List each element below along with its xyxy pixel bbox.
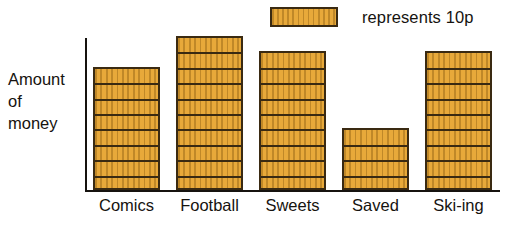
bar-slot: [176, 36, 243, 190]
bar-segment-divider: [95, 114, 158, 116]
bar-segment-divider: [344, 160, 407, 162]
bar-segment-divider: [178, 145, 241, 147]
bar-segment-divider: [178, 83, 241, 85]
bar-segment-divider: [178, 176, 241, 178]
bar-segment-divider: [178, 52, 241, 54]
bar-segment-divider: [95, 145, 158, 147]
bar-segment-divider: [427, 129, 490, 131]
bar-segment-divider: [344, 145, 407, 147]
bar-segment-divider: [178, 68, 241, 70]
y-axis-title-line-2: of: [8, 90, 65, 112]
bar-segment-divider: [178, 114, 241, 116]
x-axis-tick-labels: ComicsFootballSweetsSavedSki-ing: [93, 196, 500, 222]
bar-sweets[interactable]: [259, 51, 326, 190]
bar-segment-divider: [427, 145, 490, 147]
y-axis-title: Amount of money: [8, 68, 65, 134]
bar-segment-divider: [178, 129, 241, 131]
y-axis-line: [85, 38, 87, 191]
bar-segment-divider: [261, 160, 324, 162]
bar-segment-divider: [95, 83, 158, 85]
x-axis-label-comics: Comics: [93, 196, 160, 215]
x-axis-label-sweets: Sweets: [259, 196, 326, 215]
bar-ski-ing[interactable]: [425, 51, 492, 190]
bar-segment-divider: [261, 176, 324, 178]
x-axis-label-football: Football: [176, 196, 243, 215]
bar-segment-divider: [261, 68, 324, 70]
bar-segment-divider: [95, 160, 158, 162]
bar-chart: represents 10p Amount of money ComicsFoo…: [0, 0, 505, 226]
bar-segment-divider: [427, 114, 490, 116]
bar-segment-divider: [344, 176, 407, 178]
x-axis-line: [85, 190, 500, 192]
bar-segment-divider: [261, 83, 324, 85]
bar-slot: [259, 51, 326, 190]
bar-saved[interactable]: [342, 128, 409, 190]
bar-segment-divider: [95, 99, 158, 101]
bar-segment-divider: [427, 83, 490, 85]
bar-segment-divider: [427, 68, 490, 70]
bar-segment-divider: [427, 176, 490, 178]
bar-segment-divider: [261, 129, 324, 131]
bar-segment-divider: [178, 99, 241, 101]
bar-segment-divider: [261, 99, 324, 101]
x-axis-label-saved: Saved: [342, 196, 409, 215]
plot-area: [93, 20, 500, 190]
bar-slot: [93, 67, 160, 190]
bar-segment-divider: [95, 129, 158, 131]
y-axis-title-line-1: Amount: [8, 68, 65, 90]
y-axis-title-line-3: money: [8, 112, 65, 134]
bar-segment-divider: [261, 145, 324, 147]
bar-comics[interactable]: [93, 67, 160, 190]
bar-segment-divider: [261, 114, 324, 116]
bar-slot: [342, 128, 409, 190]
bar-football[interactable]: [176, 36, 243, 190]
x-axis-label-ski-ing: Ski-ing: [425, 196, 492, 215]
bar-segment-divider: [427, 160, 490, 162]
bar-slot: [425, 51, 492, 190]
bar-segment-divider: [95, 176, 158, 178]
bar-segment-divider: [178, 160, 241, 162]
bar-segment-divider: [427, 99, 490, 101]
